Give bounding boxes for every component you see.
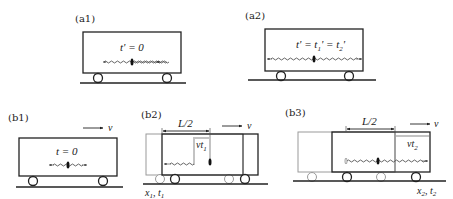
panel-label-b1: (b1) bbox=[8, 112, 29, 123]
time-label: t' = 0 bbox=[120, 41, 144, 53]
ghost-wheel bbox=[377, 173, 386, 182]
time-label: t = 0 bbox=[56, 145, 78, 157]
displacement-label: vt1 bbox=[196, 139, 207, 153]
panel-a2: (a2) t' = t1' = t2' bbox=[245, 10, 376, 81]
wheel bbox=[171, 175, 180, 184]
displacement-label: vt2 bbox=[407, 138, 418, 152]
panel-label-a1: (a1) bbox=[75, 13, 95, 24]
light-source-icon bbox=[209, 159, 212, 166]
panel-b3: (b3) L/2 v vt2 x2, t2 bbox=[285, 107, 446, 198]
half-length-label: L/2 bbox=[361, 115, 377, 127]
ghost-wheel bbox=[225, 175, 234, 184]
panel-b2: (b2) L/2 v vt1 x1, t1 bbox=[141, 109, 268, 199]
wheel bbox=[29, 177, 38, 186]
light-source-icon bbox=[67, 162, 70, 169]
half-length-label: L/2 bbox=[177, 117, 193, 129]
panel-a1: (a1) t' = 0 bbox=[75, 13, 186, 83]
wheel bbox=[345, 72, 354, 81]
wheel bbox=[99, 177, 108, 186]
panel-label-a2: (a2) bbox=[245, 10, 265, 21]
wheel bbox=[94, 74, 103, 83]
light-source-icon bbox=[313, 56, 316, 63]
ghost-cart-body bbox=[146, 134, 243, 175]
light-source-icon bbox=[131, 59, 134, 66]
ghost-wheel bbox=[308, 173, 317, 182]
event-position-label: x2, t2 bbox=[416, 185, 437, 198]
wheel bbox=[343, 173, 352, 182]
panel-label-b2: (b2) bbox=[141, 109, 162, 120]
cart-body bbox=[19, 138, 117, 176]
ghost-cart-body bbox=[298, 132, 395, 172]
light-pulse bbox=[347, 160, 425, 162]
velocity-label: v bbox=[247, 120, 252, 131]
ghost-wheel bbox=[156, 175, 165, 184]
velocity-label: v bbox=[434, 118, 439, 129]
wheel bbox=[241, 175, 250, 184]
wheel bbox=[412, 173, 421, 182]
wheel bbox=[163, 74, 172, 83]
velocity-label: v bbox=[108, 122, 113, 133]
time-label: t' = t1' = t2' bbox=[296, 38, 346, 53]
panel-label-b3: (b3) bbox=[285, 107, 306, 118]
light-source-icon bbox=[377, 158, 380, 165]
light-pulse bbox=[170, 163, 194, 165]
event-position-label: x1, t1 bbox=[144, 187, 164, 199]
wheel bbox=[277, 72, 286, 81]
reflection-mark-icon bbox=[345, 158, 347, 164]
cart-body bbox=[265, 29, 363, 71]
cart-body bbox=[332, 132, 430, 172]
panel-b1: (b1) v t = 0 bbox=[8, 112, 123, 187]
